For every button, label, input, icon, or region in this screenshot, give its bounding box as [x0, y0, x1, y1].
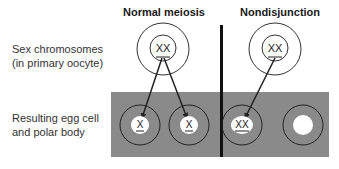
arrow-to-nondisjunction-egg [245, 58, 275, 118]
primary-oocyte-normal: XX [137, 23, 189, 75]
svg-text:XX: XX [235, 119, 249, 130]
polar-body-normal: X [169, 105, 209, 145]
primary-oocyte-nondisjunction: XX [249, 23, 301, 75]
chromosome-label: XX [156, 42, 171, 54]
chromosome-label: XX [268, 42, 283, 54]
polar-body-nondisjunction [283, 105, 323, 145]
svg-text:X: X [186, 119, 193, 130]
svg-text:X: X [137, 119, 144, 130]
diagram-canvas: XX XX X X XX [0, 0, 339, 169]
egg-cell-nondisjunction: XX [222, 105, 262, 145]
egg-cell-normal: X [120, 105, 160, 145]
arrow-to-normal-polar [164, 58, 187, 118]
